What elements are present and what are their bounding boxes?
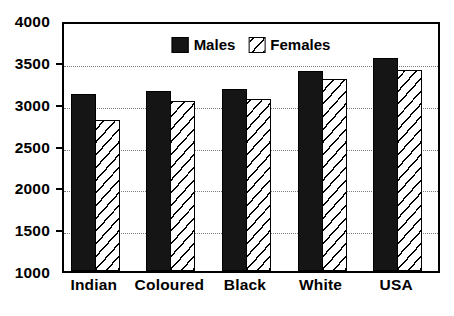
- bar-black-males: [222, 89, 247, 271]
- y-tick-label: 2000: [15, 180, 50, 198]
- bar-group: [298, 24, 347, 271]
- bar-group: [222, 24, 271, 271]
- bar-black-females: [246, 99, 271, 271]
- bar-usa-females: [397, 70, 422, 271]
- y-tick-label: 1000: [15, 264, 50, 282]
- bar-coloured-females: [170, 101, 195, 271]
- bar-usa-males: [373, 58, 398, 271]
- bar-indian-males: [71, 94, 96, 271]
- x-tick-label-coloured: Coloured: [135, 276, 205, 294]
- y-tick-label: 4000: [15, 13, 50, 31]
- x-tick-label-white: White: [299, 276, 342, 294]
- legend-label-females: Females: [270, 36, 330, 53]
- bar-white-females: [322, 79, 347, 271]
- legend-entry-males: Males: [172, 36, 236, 53]
- bar-white-males: [298, 71, 323, 271]
- y-tick-label: 2500: [15, 139, 50, 157]
- y-axis: 1000150020002500300035004000: [0, 0, 62, 316]
- x-axis: IndianColouredBlackWhiteUSA: [62, 276, 440, 302]
- x-tick-label-black: Black: [224, 276, 266, 294]
- y-tick-label: 1500: [15, 222, 50, 240]
- bar-group: [71, 24, 120, 271]
- bar-chart: 1000150020002500300035004000 Males Femal…: [0, 0, 454, 316]
- bar-group: [146, 24, 195, 271]
- bar-coloured-males: [146, 91, 171, 271]
- legend-swatch-males-icon: [172, 37, 189, 53]
- legend-swatch-females-icon: [248, 37, 265, 53]
- bar-indian-females: [95, 120, 120, 271]
- x-tick-label-indian: Indian: [70, 276, 117, 294]
- y-tick-label: 3500: [15, 55, 50, 73]
- x-tick-label-usa: USA: [380, 276, 413, 294]
- legend-entry-females: Females: [248, 36, 330, 53]
- chart-legend: Males Females: [169, 35, 334, 54]
- plot-area: Males Females: [62, 22, 440, 273]
- legend-label-males: Males: [194, 36, 236, 53]
- bar-group: [373, 24, 422, 271]
- y-tick-label: 3000: [15, 97, 50, 115]
